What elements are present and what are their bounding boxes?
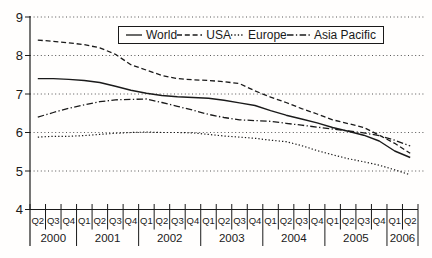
quarter-label: Q1: [388, 215, 401, 226]
series-line-asia-pacific: [38, 99, 410, 146]
quarter-label: Q4: [125, 215, 138, 226]
legend-label: USA: [206, 29, 231, 41]
quarter-label: Q1: [202, 215, 215, 226]
europe-line-swatch-icon: [231, 30, 244, 40]
quarter-label: Q2: [31, 215, 44, 226]
quarter-label: Q3: [171, 215, 184, 226]
quarter-label: Q1: [140, 215, 153, 226]
y-axis-label: 6: [16, 125, 23, 140]
quarter-label: Q4: [311, 215, 324, 226]
quarter-label: Q4: [249, 215, 262, 226]
quarter-label: Q1: [326, 215, 339, 226]
quarter-label: Q2: [93, 215, 106, 226]
quarter-label: Q3: [233, 215, 246, 226]
quarter-label: Q1: [78, 215, 91, 226]
legend: WorldUSAEuropeAsia Pacific: [118, 26, 384, 44]
y-axis-label: 7: [16, 87, 23, 102]
world-line-swatch-icon: [126, 30, 142, 40]
y-axis-label: 9: [16, 10, 23, 25]
legend-label: Asia Pacific: [314, 29, 376, 41]
year-label: 2000: [40, 232, 66, 244]
quarter-label: Q3: [295, 215, 308, 226]
legend-item-usa: USA: [177, 29, 231, 41]
quarter-label: Q4: [62, 215, 75, 226]
y-axis-label: 4: [16, 202, 23, 217]
year-label: 2003: [219, 232, 245, 244]
legend-item-asia-pacific: Asia Pacific: [287, 29, 376, 41]
quarter-label: Q2: [218, 215, 231, 226]
series-line-europe: [38, 132, 410, 175]
year-label: 2001: [95, 232, 121, 244]
quarter-label: Q2: [404, 215, 417, 226]
legend-item-europe: Europe: [231, 29, 287, 41]
quarter-label: Q3: [357, 215, 370, 226]
line-chart: 456789Q2Q3Q4Q1Q2Q3Q4Q1Q2Q3Q4Q1Q2Q3Q4Q1Q2…: [0, 0, 432, 258]
quarter-label: Q3: [109, 215, 122, 226]
year-label: 2002: [157, 232, 183, 244]
legend-item-world: World: [126, 29, 177, 41]
year-label: 2004: [281, 232, 307, 244]
year-label: 2005: [343, 232, 369, 244]
y-axis-label: 5: [16, 164, 23, 179]
year-label: 2006: [390, 232, 416, 244]
legend-label: Europe: [248, 29, 287, 41]
quarter-label: Q3: [47, 215, 60, 226]
usa-line-swatch-icon: [177, 30, 202, 40]
quarter-label: Q2: [156, 215, 169, 226]
quarter-label: Q4: [187, 215, 200, 226]
quarter-label: Q1: [264, 215, 277, 226]
asia-pacific-line-swatch-icon: [287, 30, 310, 40]
legend-label: World: [146, 29, 177, 41]
y-axis-label: 8: [16, 48, 23, 63]
quarter-label: Q2: [342, 215, 355, 226]
quarter-label: Q4: [373, 215, 386, 226]
quarter-label: Q2: [280, 215, 293, 226]
series-line-usa: [38, 40, 410, 153]
